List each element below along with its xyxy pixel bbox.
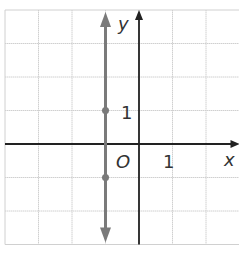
origin-label: O xyxy=(116,151,130,172)
x-axis-label: x xyxy=(223,149,235,170)
axes xyxy=(5,10,239,245)
arrow-down-icon xyxy=(100,228,111,243)
arrow-up-icon xyxy=(100,12,111,27)
grid-lines xyxy=(5,10,239,245)
data-point xyxy=(102,107,109,114)
axis-labels: y x O 1 1 xyxy=(116,13,235,172)
x-axis-arrow-icon xyxy=(231,140,240,148)
y-axis-arrow-icon xyxy=(135,10,143,20)
data-point xyxy=(102,174,109,181)
y-tick-label-1: 1 xyxy=(121,102,132,123)
y-axis-label: y xyxy=(117,13,129,34)
coordinate-plane: y x O 1 1 xyxy=(0,0,239,269)
x-tick-label-1: 1 xyxy=(163,151,174,172)
plotted-line xyxy=(100,12,111,243)
